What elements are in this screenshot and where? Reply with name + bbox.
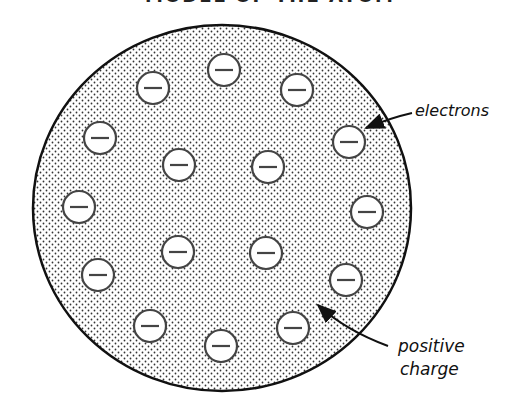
electron [137,72,169,104]
electron [82,259,114,291]
electron [333,126,365,158]
electron [205,330,237,362]
positive-charge-label-line1: positive [397,336,465,356]
electron [134,310,166,342]
electron [163,149,195,181]
electron [63,191,95,223]
electron [250,237,282,269]
atom-model-diagram: MODEL OF THE ATOM electrons positive cha… [0,0,514,406]
electron [84,122,116,154]
electrons-label: electrons [415,101,489,120]
electron [351,196,383,228]
electron [162,236,194,268]
electron [252,151,284,183]
electron [330,264,362,296]
electron [277,312,309,344]
positive-charge-label-line2: charge [400,359,459,379]
electron [281,74,313,106]
electron [208,54,240,86]
diagram-title: MODEL OF THE ATOM [145,0,395,6]
